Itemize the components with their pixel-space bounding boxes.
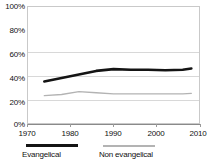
legend-swatch-non-evangelical xyxy=(103,145,155,147)
legend-label-evangelical: Evangelical xyxy=(22,150,94,160)
line-chart: 100% 80% 60% 40% 20% 0% 1970 1980 1990 2… xyxy=(0,0,211,164)
legend: Evangelical Non evangelical xyxy=(0,142,211,164)
series-line-non-evangelical xyxy=(44,92,191,96)
legend-item-non-evangelical: Non evangelical xyxy=(99,142,195,160)
series-layer xyxy=(0,0,211,164)
legend-label-non-evangelical: Non evangelical xyxy=(99,150,195,160)
series-line-evangelical xyxy=(44,69,191,82)
legend-swatch-evangelical xyxy=(26,144,78,147)
legend-item-evangelical: Evangelical xyxy=(22,142,94,160)
